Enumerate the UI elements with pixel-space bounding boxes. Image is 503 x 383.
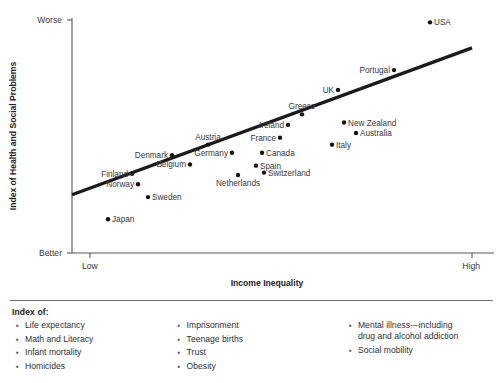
bullet-icon: ▪: [178, 361, 187, 372]
data-point-dot: [300, 112, 304, 116]
y-tick-label-worse: Worse: [37, 15, 62, 25]
data-point: Ireland: [259, 121, 290, 130]
bullet-icon: ▪: [178, 320, 187, 331]
data-point: USA: [428, 18, 452, 27]
index-columns: ▪Life expectancy▪Math and Literacy▪Infan…: [10, 320, 493, 374]
data-point-dot: [428, 20, 432, 24]
data-point-label: Germany: [194, 149, 229, 158]
data-point: UK: [323, 86, 341, 95]
data-point-label: Switzerland: [268, 169, 311, 178]
data-point-label: Denmark: [135, 151, 169, 160]
index-column: ▪Life expectancy▪Math and Literacy▪Infan…: [10, 320, 176, 374]
index-column: ▪Imprisonment▪Teenage births▪Trust▪Obesi…: [176, 320, 347, 374]
data-point-dot: [278, 135, 282, 139]
data-point-label: Sweden: [152, 193, 182, 202]
data-point-label: France: [251, 134, 277, 143]
index-list-item: ▪Teenage births: [178, 334, 347, 345]
data-point: Sweden: [146, 193, 182, 202]
data-point: New Zealand: [342, 119, 397, 128]
data-point: Austria: [195, 133, 221, 147]
data-point: Australia: [354, 129, 393, 138]
data-point-label: Portugal: [360, 66, 391, 75]
data-point-dot: [260, 151, 264, 155]
y-axis-title: Index of Health and Social Problems: [8, 62, 18, 211]
axis-labels-group: WorseBetterLowHighIncome InequalityIndex…: [8, 15, 480, 288]
index-list-item: ▪Infant mortality: [16, 347, 176, 358]
data-point-label: Netherlands: [216, 179, 260, 188]
bullet-icon: ▪: [16, 334, 25, 345]
data-point-dot: [130, 172, 134, 176]
data-point-label: Ireland: [259, 121, 284, 130]
data-point-label: Belgium: [156, 160, 186, 169]
y-tick-label-better: Better: [39, 248, 62, 258]
index-item-label: Trust: [187, 347, 206, 358]
data-point: France: [251, 134, 283, 143]
index-item-label: Imprisonment: [187, 320, 239, 331]
data-point-dot: [354, 131, 358, 135]
footer-divider: [10, 300, 493, 301]
index-item-label: Infant mortality: [25, 347, 81, 358]
data-point-label: Greece: [289, 102, 316, 111]
data-point-dot: [106, 217, 110, 221]
data-point: Netherlands: [216, 173, 260, 188]
data-point: Canada: [260, 149, 295, 158]
data-point: Japan: [106, 215, 135, 224]
bullet-icon: ▪: [349, 345, 358, 356]
x-axis-title: Income Inequality: [231, 278, 304, 288]
data-point-dot: [262, 170, 266, 174]
index-list-item: ▪Homicides: [16, 361, 176, 372]
data-point-label: Japan: [112, 215, 135, 224]
data-point-label: Italy: [336, 141, 352, 150]
index-item-label: Obesity: [187, 361, 216, 372]
data-point-dot: [254, 163, 258, 167]
data-point-dot: [170, 153, 174, 157]
x-tick-label-low: Low: [82, 261, 99, 271]
data-point-dot: [330, 142, 334, 146]
data-point-label: New Zealand: [348, 119, 397, 128]
index-list-item: ▪Mental illness—including drug and alcoh…: [349, 320, 493, 342]
data-point-label: Australia: [360, 129, 392, 138]
index-column: ▪Mental illness—including drug and alcoh…: [347, 320, 493, 358]
index-item-label: Mental illness—including drug and alcoho…: [358, 320, 458, 342]
index-list-item: ▪Life expectancy: [16, 320, 176, 331]
x-tick-label-high: High: [462, 261, 480, 271]
bullet-icon: ▪: [16, 361, 25, 372]
data-point-label: USA: [434, 18, 451, 27]
index-list-item: ▪Obesity: [178, 361, 347, 372]
scatter-chart-figure: USAPortugalUKGreeceNew ZealandIrelandAus…: [0, 0, 503, 300]
bullet-icon: ▪: [16, 320, 25, 331]
data-point-label: Austria: [195, 133, 221, 142]
scatter-plot-canvas: USAPortugalUKGreeceNew ZealandIrelandAus…: [0, 0, 503, 300]
bullet-icon: ▪: [16, 347, 25, 358]
index-item-label: Math and Literacy: [25, 334, 93, 345]
bullet-icon: ▪: [178, 347, 187, 358]
data-point-dot: [188, 162, 192, 166]
data-point: Portugal: [360, 66, 397, 75]
bullet-icon: ▪: [178, 334, 187, 345]
data-points-group: USAPortugalUKGreeceNew ZealandIrelandAus…: [101, 18, 451, 224]
index-list-item: ▪Social mobility: [349, 345, 493, 356]
data-point-dot: [146, 195, 150, 199]
data-point: Germany: [194, 149, 234, 158]
data-point-label: Norway: [106, 180, 135, 189]
bullet-icon: ▪: [349, 320, 358, 331]
data-point-dot: [286, 123, 290, 127]
data-point-dot: [392, 68, 396, 72]
data-point: Norway: [106, 180, 140, 189]
data-point-dot: [236, 173, 240, 177]
index-list-item: ▪Trust: [178, 347, 347, 358]
index-legend-footer: Index of: ▪Life expectancy▪Math and Lite…: [0, 300, 503, 383]
index-item-label: Teenage births: [187, 334, 243, 345]
index-heading: Index of:: [12, 307, 493, 317]
data-point: Switzerland: [262, 169, 311, 178]
index-list-item: ▪Imprisonment: [178, 320, 347, 331]
index-item-label: Homicides: [25, 361, 65, 372]
index-list-item: ▪Math and Literacy: [16, 334, 176, 345]
data-point-dot: [230, 151, 234, 155]
data-point: Belgium: [156, 160, 192, 169]
data-point-label: UK: [323, 86, 335, 95]
data-point-dot: [206, 142, 210, 146]
data-point-dot: [136, 182, 140, 186]
data-point: Italy: [330, 141, 352, 150]
data-point-dot: [336, 88, 340, 92]
